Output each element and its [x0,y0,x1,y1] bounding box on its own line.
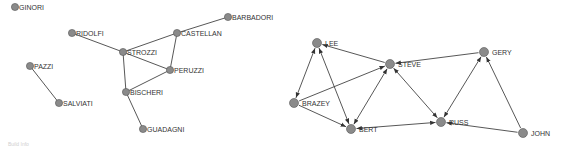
node-label: BRAZEY [302,100,330,107]
node-circle-icon [11,3,18,10]
node-gery[interactable]: GERY [480,48,513,57]
node-circle-icon [347,125,356,134]
edge [30,66,59,103]
node-label: RIDOLFI [76,30,104,37]
node-circle-icon [480,48,489,57]
node-circle-icon [26,62,33,69]
node-circle-icon [313,39,322,48]
node-label: JOHN [531,130,550,137]
node-circle-icon [122,88,129,95]
node-circle-icon [173,29,180,36]
node-brazey[interactable]: BRAZEY [290,99,331,108]
node-circle-icon [119,48,126,55]
node-circle-icon [139,125,146,132]
node-label: BISCHERI [130,89,163,96]
node-label: STROZZI [127,49,157,56]
node-label: RUSS [449,119,469,126]
edge [299,105,346,126]
edge [123,52,126,92]
node-label: BARBADORI [232,14,273,21]
node-label: PERUZZI [174,67,204,74]
node-russ[interactable]: RUSS [437,118,469,127]
node-peruzzi[interactable]: PERUZZI [166,66,204,73]
node-salviati[interactable]: SALVIATI [55,99,92,106]
node-circle-icon [166,66,173,73]
edge [322,45,384,63]
edge [170,33,177,70]
node-circle-icon [290,99,299,108]
edge [394,68,438,118]
node-label: CASTELLAN [181,30,222,37]
node-steve[interactable]: STEVE [386,60,422,69]
edge [486,57,520,128]
nodes-layer: GINORIRIDOLFISTROZZICASTELLANBARBADORIPE… [11,3,550,137]
node-label: LEE [325,40,339,47]
node-pazzi[interactable]: PAZZI [26,62,53,69]
node-bert[interactable]: BERT [347,125,379,134]
node-castellan[interactable]: CASTELLAN [173,29,221,36]
node-label: GINORI [19,4,44,11]
node-strozzi[interactable]: STROZZI [119,48,157,55]
node-ginori[interactable]: GINORI [11,3,44,10]
node-circle-icon [386,60,395,69]
node-label: BERT [359,126,378,133]
node-label: PAZZI [34,63,53,70]
node-label: STEVE [398,61,421,68]
node-bischeri[interactable]: BISCHERI [122,88,163,95]
edge [296,48,315,98]
node-barbadori[interactable]: BARBADORI [224,13,273,20]
node-lee[interactable]: LEE [313,39,339,48]
node-circle-icon [55,99,62,106]
node-guadagni[interactable]: GUADAGNI [139,125,184,132]
node-ridolfi[interactable]: RIDOLFI [68,29,103,36]
caption-text: Build Info [8,141,29,147]
node-circle-icon [437,118,446,127]
edge [126,92,143,129]
network-diagram-canvas: GINORIRIDOLFISTROZZICASTELLANBARBADORIPE… [0,0,567,149]
node-circle-icon [68,29,75,36]
node-label: GERY [492,49,512,56]
node-john[interactable]: JOHN [519,129,551,138]
edge [319,48,349,124]
edge [299,66,385,101]
node-label: SALVIATI [63,100,93,107]
node-circle-icon [519,129,528,138]
edge [444,57,481,118]
node-circle-icon [224,13,231,20]
node-label: GUADAGNI [147,126,184,133]
